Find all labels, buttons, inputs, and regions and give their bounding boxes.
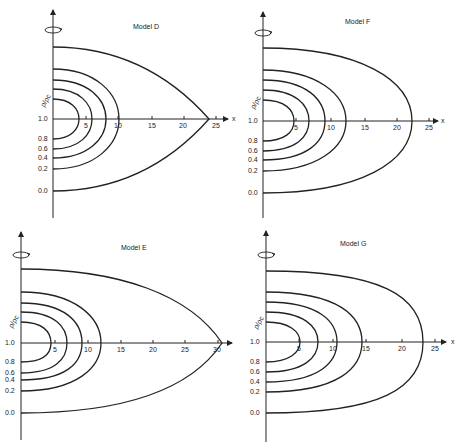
level-label: 0.2 [250, 388, 260, 395]
level-label: 0.2 [38, 165, 48, 172]
svg-text:25: 25 [181, 346, 189, 353]
y-axis-label: ρ/ρc [39, 93, 53, 109]
x-axis-label: x [451, 338, 455, 345]
panel-title: Model G [340, 240, 366, 247]
panel-title: Model F [345, 18, 370, 25]
svg-text:10: 10 [84, 346, 92, 353]
level-label: 0.2 [5, 387, 15, 394]
svg-text:5: 5 [53, 346, 57, 353]
level-label: 1.0 [38, 115, 48, 122]
level-label: 0.8 [250, 358, 260, 365]
y-axis-label: ρ/ρc [7, 314, 21, 330]
svg-text:20: 20 [149, 346, 157, 353]
level-label: 0.0 [38, 187, 48, 194]
svg-text:10: 10 [327, 124, 335, 131]
y-axis-label: ρ/ρc [252, 315, 266, 331]
level-label: 0.8 [38, 135, 48, 142]
x-axis-label: x [232, 115, 236, 122]
level-label: 0.8 [248, 137, 258, 144]
level-label: 0.8 [5, 358, 15, 365]
level-label: 0.6 [250, 368, 260, 375]
svg-text:15: 15 [361, 124, 369, 131]
panel-model-e: Model E ρ/ρc 1.0 0.8 0.6 0.4 0.2 0.0 5 1… [5, 232, 232, 440]
level-label: 0.6 [38, 145, 48, 152]
x-ticks: 5 10 15 20 25 30 [53, 340, 221, 353]
svg-text:25: 25 [431, 345, 439, 352]
level-label: 0.0 [5, 409, 15, 416]
svg-text:15: 15 [148, 122, 156, 129]
svg-text:15: 15 [117, 346, 125, 353]
svg-text:5: 5 [294, 124, 298, 131]
level-label: 1.0 [248, 117, 258, 124]
x-ticks: 5 10 15 20 25 [84, 116, 220, 129]
level-label: 0.4 [250, 378, 260, 385]
svg-text:5: 5 [84, 122, 88, 129]
svg-text:20: 20 [398, 345, 406, 352]
panel-model-d: Model D x ρ/ρc 1.0 0.8 0.6 0.4 0.2 0.0 5… [38, 10, 236, 218]
figure: Model D x ρ/ρc 1.0 0.8 0.6 0.4 0.2 0.0 5… [0, 0, 461, 448]
level-label: 1.0 [250, 338, 260, 345]
level-label: 1.0 [5, 339, 15, 346]
level-label: 0.4 [5, 376, 15, 383]
level-label: 0.2 [248, 167, 258, 174]
level-label: 0.0 [248, 189, 258, 196]
panel-title: Model E [121, 244, 147, 251]
panel-model-f: Model F x ρ/ρc 1.0 0.8 0.6 0.4 0.2 0.0 5… [248, 12, 445, 218]
svg-text:20: 20 [179, 122, 187, 129]
panel-model-g: Model G x ρ/ρc 1.0 0.8 0.6 0.4 0.2 0.0 5… [250, 231, 455, 442]
svg-text:20: 20 [393, 124, 401, 131]
y-axis-label: ρ/ρc [249, 95, 263, 111]
level-label: 0.6 [5, 369, 15, 376]
svg-text:25: 25 [425, 124, 433, 131]
level-label: 0.4 [38, 154, 48, 161]
level-label: 0.6 [248, 147, 258, 154]
level-label: 0.4 [248, 156, 258, 163]
panel-title: Model D [133, 23, 159, 30]
svg-text:25: 25 [212, 122, 220, 129]
x-axis-label: x [441, 117, 445, 124]
svg-text:15: 15 [362, 345, 370, 352]
level-label: 0.0 [250, 409, 260, 416]
